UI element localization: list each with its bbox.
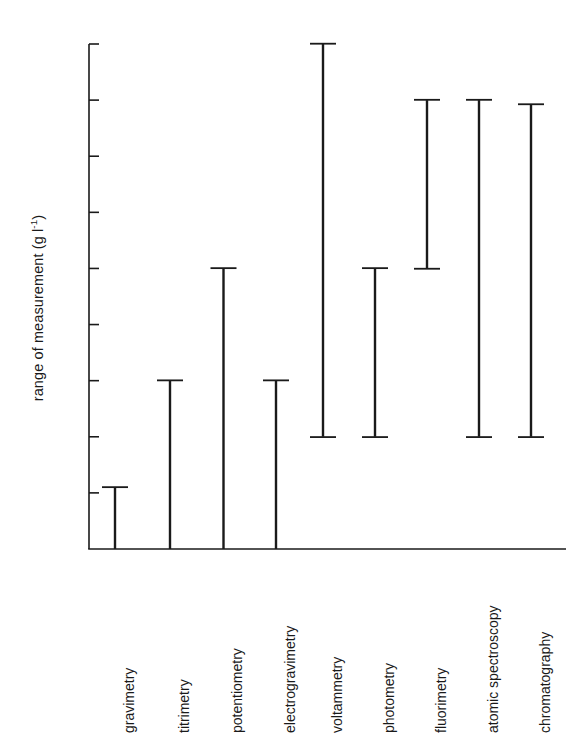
range-bar-stem <box>530 105 532 437</box>
range-bar-upper-cap <box>263 379 289 381</box>
range-bar <box>102 486 128 549</box>
range-bar-lower-cap <box>414 268 440 270</box>
range-bar-stem <box>322 44 324 437</box>
range-bar <box>263 379 289 549</box>
range-bar <box>310 43 336 438</box>
range-bar <box>362 267 388 438</box>
range-bar <box>466 99 492 438</box>
range-bar-upper-cap <box>362 267 388 269</box>
y-axis-ticks <box>89 44 99 493</box>
range-bars <box>102 43 544 549</box>
range-bar-lower-cap <box>466 436 492 438</box>
x-axis-category-label: titrimetry <box>176 679 192 733</box>
range-bar-lower-cap <box>310 436 336 438</box>
x-axis-category-label: gravimetry <box>121 668 137 733</box>
range-bar-stem <box>222 268 224 549</box>
range-bar <box>414 99 440 270</box>
x-axis-category-label: photometry <box>381 663 397 733</box>
range-bar-lower-cap <box>362 436 388 438</box>
x-axis-category-label: electrogravimetry <box>282 626 298 733</box>
range-bar <box>518 103 544 438</box>
x-axis-category-label: voltammetry <box>329 657 345 733</box>
x-axis-category-label: chromatography <box>537 632 553 733</box>
range-of-measurement-chart: range of measurement (g l-1) 10−1010−910… <box>0 0 580 747</box>
x-axis-category-label: potentiometry <box>229 648 245 733</box>
range-bar-stem <box>169 381 171 549</box>
range-bar-stem <box>275 381 277 549</box>
x-axis-category-label: atomic spectroscopy <box>485 605 501 733</box>
range-bar <box>211 267 237 549</box>
range-bar-upper-cap <box>102 486 128 488</box>
range-bar <box>157 379 183 549</box>
x-axis-category-label: fluorimetry <box>433 668 449 733</box>
range-bar-stem <box>478 100 480 437</box>
range-bar-upper-cap <box>157 379 183 381</box>
range-bar-stem <box>374 268 376 436</box>
axis-lines <box>88 44 566 549</box>
range-bar-stem <box>426 100 428 268</box>
range-bar-upper-cap <box>466 99 492 101</box>
range-bar-upper-cap <box>518 103 544 105</box>
range-bar-lower-cap <box>518 436 544 438</box>
range-bar-upper-cap <box>414 99 440 101</box>
range-bar-upper-cap <box>211 267 237 269</box>
range-bar-stem <box>114 487 116 549</box>
range-bar-upper-cap <box>310 43 336 45</box>
